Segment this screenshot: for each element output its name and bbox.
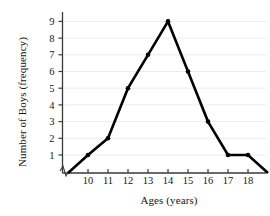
y-axis-label: Number of Boys (frequency): [16, 32, 28, 172]
data-point: [206, 119, 211, 124]
x-tick-label: 18: [243, 175, 254, 186]
x-axis-label: Ages (years): [84, 194, 254, 206]
x-tick-label: 17: [223, 175, 234, 186]
data-point: [86, 153, 91, 158]
y-tick-label: 7: [49, 49, 54, 60]
x-tick-label: 10: [83, 175, 94, 186]
data-point: [186, 69, 191, 74]
y-tick-label: 1: [49, 150, 54, 161]
x-tick-label: 11: [103, 175, 113, 186]
y-tick-label: 5: [49, 83, 54, 94]
frequency-polygon-chart: 123456789 101112131415161718 Number of B…: [0, 0, 270, 216]
x-tick-label: 12: [123, 175, 134, 186]
x-tick-label: 15: [183, 175, 194, 186]
chart-plot-area: 123456789 101112131415161718: [0, 0, 270, 216]
data-point: [146, 53, 151, 58]
y-tick-label: 4: [49, 100, 55, 111]
gridlines: [64, 21, 267, 155]
x-tick-label: 14: [163, 175, 174, 186]
y-tick-label: 2: [49, 133, 54, 144]
data-point: [126, 86, 131, 91]
y-tick-label: 9: [49, 16, 54, 27]
data-point: [246, 153, 251, 158]
x-tick-label: 13: [143, 175, 154, 186]
data-point: [166, 19, 171, 24]
y-tick-label: 3: [49, 116, 54, 127]
x-axis-ticks: 101112131415161718: [83, 169, 254, 186]
y-tick-label: 6: [49, 66, 54, 77]
data-point: [106, 136, 111, 141]
data-point: [226, 153, 231, 158]
y-axis-ticks: 123456789: [49, 16, 62, 161]
y-tick-label: 8: [49, 33, 54, 44]
axis-break-icon: [60, 166, 69, 176]
x-tick-label: 16: [203, 175, 214, 186]
series-line-number-of-boys: [68, 21, 268, 173]
